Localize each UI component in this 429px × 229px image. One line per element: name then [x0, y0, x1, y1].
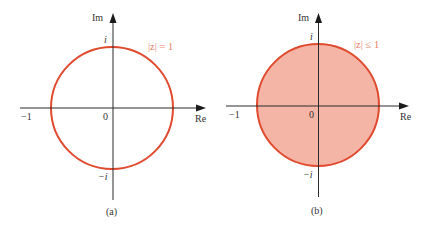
inequality-label: |z| ≤ 1	[354, 39, 379, 50]
imaginary-axis-arrow-icon	[315, 13, 322, 23]
pos-i-label: i	[310, 31, 313, 42]
imag-axis-label: Im	[298, 12, 309, 23]
origin-label: 0	[309, 109, 314, 120]
panel-a: Im Re 0 −1 i −i |z| = 1 (a)	[20, 12, 207, 218]
neg-i-label: −i	[98, 171, 108, 182]
real-axis-arrow-icon	[399, 103, 409, 110]
real-axis-label: Re	[400, 111, 412, 122]
neg-one-label: −1	[21, 111, 32, 122]
complex-plane-figure: Im Re 0 −1 i −i |z| = 1 (a) Im Re 0 −1 i…	[0, 0, 429, 229]
neg-i-label: −i	[303, 169, 313, 180]
real-axis-arrow-icon	[196, 105, 206, 112]
imaginary-axis-arrow-icon	[110, 13, 117, 23]
pos-i-label: i	[104, 34, 107, 45]
panel-caption: (a)	[106, 206, 117, 218]
equation-label: |z| = 1	[148, 41, 173, 52]
origin-label: 0	[103, 111, 108, 122]
real-axis-label: Re	[195, 113, 207, 124]
panel-b: Im Re 0 −1 i −i |z| ≤ 1 (b)	[226, 12, 412, 217]
panel-caption: (b)	[311, 205, 323, 217]
imag-axis-label: Im	[92, 12, 103, 23]
neg-one-label: −1	[229, 109, 240, 120]
